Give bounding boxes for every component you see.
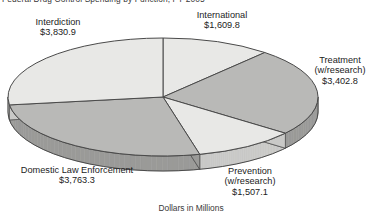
slice-label-prevention-value: $1,507.1 <box>200 187 300 197</box>
slice-label-prevention-name: Prevention <box>200 166 300 176</box>
slice-label-international-name: International <box>170 10 274 20</box>
slice-label-international: International $1,609.8 <box>170 10 274 31</box>
slice-label-domestic-law-enforcement: Domestic Law Enforcement $3,763.3 <box>4 165 150 186</box>
slice-label-interdiction-value: $3,830.9 <box>6 27 110 37</box>
chart-caption: Dollars in Millions <box>0 203 382 212</box>
slice-label-treatment-value: $3,402.8 <box>300 76 380 86</box>
slice-label-treatment: Treatment (w/research) $3,402.8 <box>300 55 380 86</box>
slice-label-treatment-sub: (w/research) <box>300 65 380 75</box>
slice-label-interdiction: Interdiction $3,830.9 <box>6 17 110 38</box>
slice-label-international-value: $1,609.8 <box>170 20 274 30</box>
slice-label-prevention: Prevention (w/research) $1,507.1 <box>200 166 300 197</box>
slice-label-prevention-sub: (w/research) <box>200 176 300 186</box>
slice-label-domestic-name: Domestic Law Enforcement <box>4 165 150 175</box>
slice-label-domestic-value: $3,763.3 <box>4 175 150 185</box>
slice-label-interdiction-name: Interdiction <box>6 17 110 27</box>
slice-label-treatment-name: Treatment <box>300 55 380 65</box>
pie-chart-figure: Federal Drug Control Spending by Functio… <box>0 0 382 212</box>
